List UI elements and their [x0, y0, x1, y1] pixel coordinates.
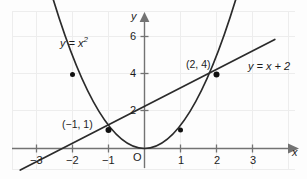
parabola-label-base: y = x [60, 37, 84, 49]
x-tick-label-2: 2 [214, 155, 220, 166]
intersection-label-left: (−1, 1) [62, 119, 93, 130]
x-tick-label--2: −2 [66, 155, 79, 166]
point-1-1 [178, 128, 183, 133]
x-tick-label-3: 3 [250, 155, 256, 166]
intersection-minus1-1 [106, 127, 112, 133]
straight-line [20, 40, 274, 171]
origin-label: O [133, 152, 142, 163]
intersection-2-4 [214, 72, 220, 78]
intersection-points [106, 72, 220, 134]
y-tick-label-4: 4 [130, 68, 136, 79]
y-tick-label-6: 6 [130, 31, 136, 42]
coordinate-plane [0, 0, 307, 179]
intersection-label-right: (2, 4) [186, 59, 211, 70]
x-tick-label--1: −1 [102, 155, 115, 166]
y-axis-arrowhead [140, 12, 150, 22]
line-label: y = x + 2 [248, 61, 290, 72]
y-tick-label-2: 2 [130, 105, 136, 116]
x-axis-label: x [292, 147, 298, 158]
parabola-label-exponent: 2 [84, 35, 88, 44]
parabola-label: y = x2 [60, 36, 88, 49]
axis-arrows [140, 12, 299, 153]
y-axis-label: y [131, 11, 137, 22]
x-tick-label--3: −3 [30, 155, 43, 166]
point-minus2-4 [70, 72, 75, 77]
x-tick-label-1: 1 [178, 155, 184, 166]
axes [12, 22, 288, 168]
graph-figure: −3 −2 −1 1 2 3 2 4 6 O x y y = x2 y = x … [0, 0, 307, 179]
